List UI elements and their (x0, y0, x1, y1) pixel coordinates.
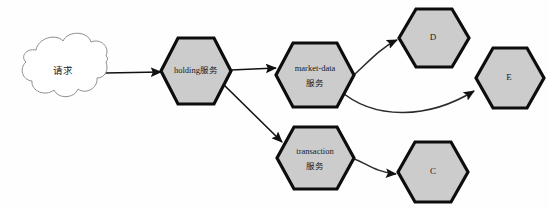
edge-market-data-to-e (338, 89, 474, 113)
node-market-data-shape (276, 43, 354, 107)
node-e-label: E (506, 72, 512, 82)
node-holding-label: holding服务 (174, 65, 218, 75)
node-c-label: C (430, 166, 436, 176)
diagram-canvas: 请求 holding服务 market-data 服务 transaction … (0, 0, 549, 209)
node-transaction[interactable]: transaction 服务 (277, 127, 354, 189)
node-c[interactable]: C (398, 142, 468, 202)
nodes-layer: 请求 holding服务 market-data 服务 transaction … (22, 9, 544, 202)
node-holding[interactable]: holding服务 (161, 38, 231, 104)
edge-holding-to-market-data (231, 68, 276, 70)
edge-holding-to-transaction (222, 83, 282, 142)
node-d-label: D (430, 32, 437, 42)
node-e[interactable]: E (476, 48, 544, 108)
node-market-data[interactable]: market-data 服务 (276, 43, 354, 107)
node-request[interactable]: 请求 (22, 33, 107, 96)
node-transaction-label-line2: 服务 (306, 161, 324, 171)
node-transaction-label-line1: transaction (296, 146, 334, 156)
cloud-shape (22, 33, 107, 96)
node-market-data-label-line1: market-data (295, 63, 336, 73)
node-request-label: 请求 (53, 65, 73, 76)
node-market-data-label-line2: 服务 (306, 78, 324, 88)
service-call-graph-diagram: 请求 holding服务 market-data 服务 transaction … (0, 0, 549, 209)
node-d[interactable]: D (399, 9, 469, 67)
node-transaction-shape (277, 127, 354, 189)
edge-request-to-holding (105, 72, 161, 73)
